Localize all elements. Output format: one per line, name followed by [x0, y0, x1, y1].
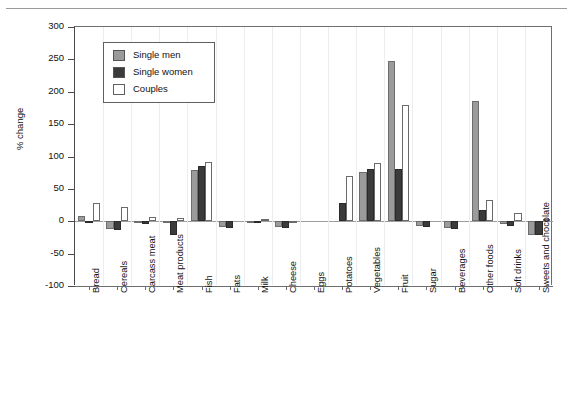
legend-swatch-icon	[113, 84, 125, 95]
bar-single-men	[528, 221, 535, 235]
y-axis-tick-label: 100	[48, 151, 64, 161]
category-gridline	[441, 27, 442, 285]
bar-single-women	[367, 169, 374, 221]
category-gridline	[216, 27, 217, 285]
bar-single-men	[134, 221, 141, 223]
x-axis-category-label: Meat products	[176, 234, 185, 293]
category-gridline	[497, 27, 498, 285]
legend-label: Single women	[133, 66, 193, 78]
x-axis-category-label: Vegetables	[373, 247, 382, 293]
category-gridline	[412, 27, 413, 285]
x-axis-category-label: Fats	[233, 275, 242, 293]
bar-single-men	[359, 172, 366, 221]
category-gridline	[356, 27, 357, 285]
bar-couples	[346, 176, 353, 221]
bar-single-women	[226, 221, 233, 227]
y-axis-tick-label: -100	[45, 280, 64, 290]
y-axis-tick	[68, 157, 75, 158]
bar-single-women	[339, 203, 346, 221]
bar-couples	[289, 221, 296, 223]
y-axis-title: % change	[14, 108, 25, 150]
y-axis-tick	[68, 92, 75, 93]
category-gridline	[525, 27, 526, 285]
x-axis-category-label: Potatoes	[345, 256, 354, 293]
category-gridline	[384, 27, 385, 285]
bar-single-women	[282, 221, 289, 228]
bar-couples	[261, 219, 268, 222]
x-axis-category-label: Other foods	[486, 244, 495, 293]
bar-single-men	[163, 221, 170, 223]
bar-couples	[402, 105, 409, 221]
bar-couples	[514, 213, 521, 221]
y-axis-tick	[68, 124, 75, 125]
bar-single-men	[388, 61, 395, 221]
legend-label: Couples	[133, 83, 168, 95]
y-axis-tick-label: 50	[53, 183, 64, 193]
bar-single-men	[500, 221, 507, 224]
category-gridline	[300, 27, 301, 285]
x-axis-category-label: Eggs	[317, 272, 326, 293]
x-axis-category-label: Cereals	[120, 261, 129, 293]
bar-single-men	[416, 221, 423, 226]
bar-couples	[149, 217, 156, 221]
legend-label: Single men	[133, 49, 181, 61]
y-axis-tick-label: 200	[48, 86, 64, 96]
y-axis-tick-label: 300	[48, 21, 64, 31]
legend-swatch-icon	[113, 50, 125, 61]
legend-swatch-icon	[113, 67, 125, 78]
bar-single-men	[275, 221, 282, 227]
bar-single-men	[472, 101, 479, 221]
bar-couples	[374, 163, 381, 221]
x-axis-category-label: Soft drinks	[514, 249, 523, 293]
x-axis-category-label: Bread	[92, 268, 101, 293]
y-axis-tick-label: 150	[48, 118, 64, 128]
x-axis-category-label: Milk	[261, 276, 270, 293]
bar-single-women	[479, 210, 486, 222]
x-axis-category-label: Sugar	[429, 268, 438, 293]
bar-single-men	[247, 221, 254, 223]
bar-single-men	[191, 170, 198, 221]
chart-legend: Single menSingle womenCouples	[103, 42, 215, 103]
bar-single-women	[507, 221, 514, 226]
bar-couples	[205, 162, 212, 222]
bar-single-women	[85, 221, 92, 223]
category-gridline	[272, 27, 273, 285]
bar-single-women	[142, 221, 149, 224]
bar-single-men	[106, 221, 113, 229]
bar-single-women	[198, 166, 205, 221]
bar-single-women	[114, 221, 121, 229]
x-axis-category-label: Carcass meat	[148, 236, 157, 293]
bar-single-women	[395, 169, 402, 221]
bar-single-men	[78, 216, 85, 221]
y-axis-tick	[68, 59, 75, 60]
y-axis-tick	[68, 286, 75, 287]
x-axis-category-label: Fruit	[401, 274, 410, 293]
bar-single-women	[451, 221, 458, 229]
bar-single-women	[170, 221, 177, 235]
bar-couples	[93, 203, 100, 221]
y-axis-tick	[68, 189, 75, 190]
category-gridline	[328, 27, 329, 285]
bar-couples	[486, 200, 493, 221]
y-axis-tick	[68, 221, 75, 222]
bar-couples	[121, 207, 128, 221]
y-axis-tick-label: 250	[48, 53, 64, 63]
category-gridline	[469, 27, 470, 285]
y-axis-tick	[68, 27, 75, 28]
x-axis-category-label: Fish	[205, 275, 214, 293]
bar-chart-figure: % change Single menSingle womenCouples -…	[0, 0, 573, 416]
bar-single-women	[254, 221, 261, 223]
y-axis-tick	[68, 254, 75, 255]
bar-couples	[177, 218, 184, 221]
category-gridline	[244, 27, 245, 285]
bar-single-women	[423, 221, 430, 227]
y-axis-tick-label: -50	[50, 248, 64, 258]
x-axis-category-label: Sweets and chocolate	[542, 202, 551, 293]
x-axis-category-label: Cheese	[289, 261, 298, 293]
bar-single-men	[219, 221, 226, 227]
y-axis-tick-label: 0	[59, 215, 64, 225]
x-axis-category-label: Beverages	[458, 249, 467, 293]
bar-single-men	[444, 221, 451, 227]
